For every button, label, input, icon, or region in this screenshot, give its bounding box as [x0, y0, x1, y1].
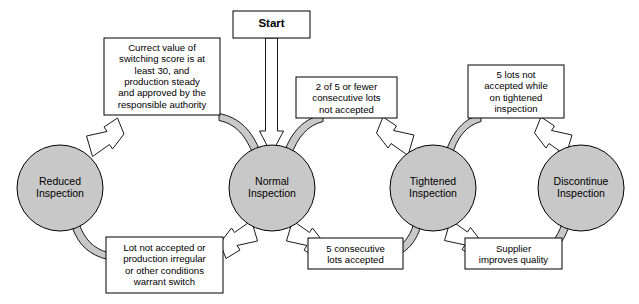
state-diagram-graphic: .gray-band { fill: #c8c8c8; stroke: #000…: [0, 0, 639, 304]
arrow-tail-reduced-to-normal: [72, 224, 108, 260]
label-box-reduced-to-normal[interactable]: [106, 237, 223, 293]
node-normal-inspection[interactable]: [229, 145, 315, 231]
node-reduced-inspection[interactable]: [17, 145, 103, 231]
label-box-tightened-to-discontinue[interactable]: [468, 65, 564, 118]
label-box-normal-to-tightened[interactable]: [296, 77, 397, 118]
start-arrow: [260, 38, 284, 154]
label-box-tightened-to-normal[interactable]: [308, 238, 403, 269]
diagram-canvas: .gray-band { fill: #c8c8c8; stroke: #000…: [0, 0, 639, 304]
arrowhead-normal-to-tightened: [377, 117, 415, 156]
label-box-normal-to-reduced[interactable]: [104, 38, 220, 115]
label-box-discontinue-to-tightened[interactable]: [465, 238, 562, 269]
start-box[interactable]: [233, 11, 310, 38]
node-tightened-inspection[interactable]: [390, 145, 476, 231]
arrowhead-normal-to-reduced: [87, 118, 125, 157]
node-discontinue-inspection[interactable]: [538, 145, 624, 231]
